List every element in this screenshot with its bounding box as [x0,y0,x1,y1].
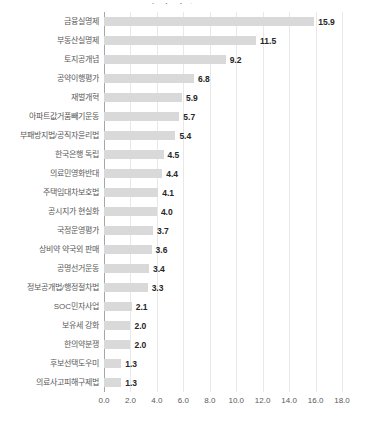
value-label: 4.5 [168,150,180,160]
chart-row: 5.7 [104,107,342,126]
chart-row: 3.4 [104,259,342,278]
category-label: 한의약분쟁 [0,335,99,354]
bar [104,264,149,273]
x-tick-label: 18.0 [334,396,350,405]
category-label: 보유세 강화 [0,316,99,335]
bar [104,359,121,368]
x-tick-label: 10.0 [228,396,244,405]
bar [104,302,132,311]
bar [104,207,157,216]
category-label: 의료민영화반대 [0,164,99,183]
chart-row: 3.6 [104,240,342,259]
value-label: 9.2 [230,55,242,65]
bar [104,283,148,292]
category-label: 정보공개법/행정절차법 [0,278,99,297]
x-tick-label: 14.0 [281,396,297,405]
x-tick-label: 0.0 [98,396,109,405]
bar [104,169,162,178]
chart-row: 1.3 [104,354,342,373]
gridline [342,12,343,392]
category-label: 부패방지법/공직자윤리법 [0,126,99,145]
value-label: 15.9 [318,17,335,27]
chart-row: 9.2 [104,50,342,69]
chart-row: 1.3 [104,373,342,392]
bar-chart-figure: 성과지수 금융실명제부동산실명제토지공개념공약이행평가재벌개혁아파트값거품빼기운… [0,0,366,422]
category-label: 공약이행평가 [0,69,99,88]
category-label: 한국은행 독립 [0,145,99,164]
category-label: 공시지가 현실화 [0,202,99,221]
chart-row: 4.0 [104,202,342,221]
value-label: 3.7 [157,226,169,236]
category-label: 주택임대차보호법 [0,183,99,202]
category-label: 국정운영평가 [0,221,99,240]
value-label: 3.4 [153,264,165,274]
chart-row: 6.8 [104,69,342,88]
chart-row: 15.9 [104,12,342,31]
x-axis-tick-labels: 0.02.04.06.08.010.012.014.016.018.0 [0,396,366,408]
chart-row: 3.7 [104,221,342,240]
category-label: SOC민자사업 [0,297,99,316]
x-tick-label: 16.0 [308,396,324,405]
bar [104,378,121,387]
value-label: 1.3 [125,359,137,369]
bar [104,74,194,83]
chart-row: 3.3 [104,278,342,297]
value-label: 1.3 [125,378,137,388]
category-axis-labels: 금융실명제부동산실명제토지공개념공약이행평가재벌개혁아파트값거품빼기운동부패방지… [0,12,99,392]
value-label: 3.3 [152,283,164,293]
bar [104,226,153,235]
bar [104,188,158,197]
bar [104,340,130,349]
category-label: 금융실명제 [0,12,99,31]
plot-area: 15.911.59.26.85.95.75.44.54.44.14.03.73.… [104,12,342,392]
value-label: 5.4 [179,131,191,141]
value-label: 2.0 [134,340,146,350]
bars-layer: 15.911.59.26.85.95.75.44.54.44.14.03.73.… [104,12,342,392]
value-label: 4.0 [161,207,173,217]
bar [104,55,226,64]
chart-row: 11.5 [104,31,342,50]
chart-title-text: 성과지수 [144,0,200,4]
chart-title-clipped: 성과지수 [0,0,344,4]
category-label: 아파트값거품빼기운동 [0,107,99,126]
chart-row: 2.1 [104,297,342,316]
value-label: 5.9 [186,93,198,103]
category-label: 상비약 약국외 판매 [0,240,99,259]
chart-row: 2.0 [104,335,342,354]
chart-row: 2.0 [104,316,342,335]
bar [104,93,182,102]
bar [104,150,164,159]
category-label: 토지공개념 [0,50,99,69]
bar [104,112,179,121]
chart-row: 4.5 [104,145,342,164]
category-label: 재벌개혁 [0,88,99,107]
value-label: 11.5 [260,36,276,46]
x-tick-label: 4.0 [151,396,162,405]
chart-row: 5.9 [104,88,342,107]
value-label: 3.6 [156,245,168,255]
value-label: 4.1 [162,188,174,198]
value-label: 6.8 [198,74,210,84]
value-label: 2.1 [136,302,148,312]
x-tick-label: 2.0 [125,396,136,405]
category-label: 후보선택도우미 [0,354,99,373]
value-label: 4.4 [166,169,178,179]
category-label: 공명선거운동 [0,259,99,278]
x-tick-label: 6.0 [178,396,189,405]
value-label: 2.0 [134,321,146,331]
chart-row: 4.4 [104,164,342,183]
category-label: 의료사고피해구제법 [0,373,99,392]
bar [104,36,256,45]
category-label: 부동산실명제 [0,31,99,50]
x-tick-label: 8.0 [204,396,215,405]
chart-row: 5.4 [104,126,342,145]
value-label: 5.7 [183,112,195,122]
chart-row: 4.1 [104,183,342,202]
bar [104,131,175,140]
bar [104,245,152,254]
bar [104,321,130,330]
x-tick-label: 12.0 [255,396,271,405]
bar [104,17,314,26]
